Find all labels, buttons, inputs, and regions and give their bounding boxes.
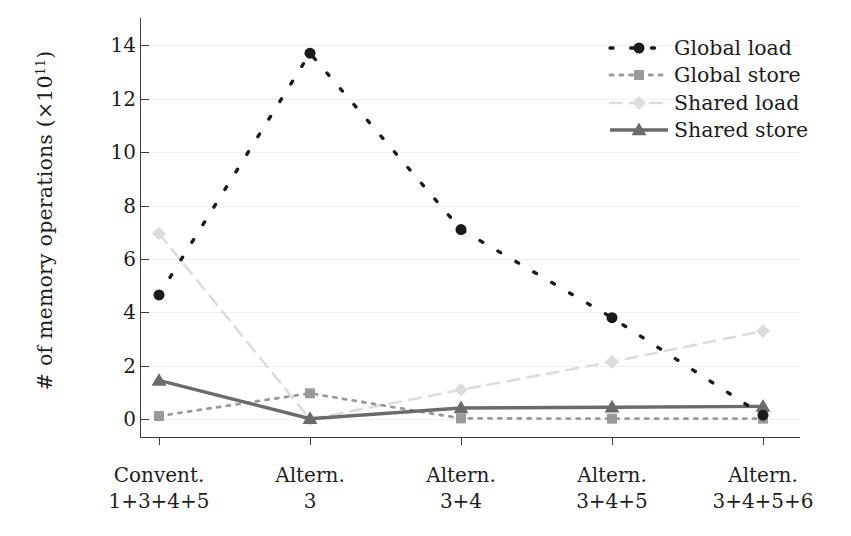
y-tick-label: 10 [76,142,136,162]
x-tick-label: Convent.1+3+4+5 [74,462,244,515]
x-tick-label-line1: Altern. [728,463,798,487]
y-tick-label: 12 [76,89,136,109]
data-point [154,411,164,421]
data-point [456,224,467,235]
x-tick-label-line2: 3+4 [376,488,546,514]
x-tick-label-line1: Altern. [577,463,647,487]
data-point [756,324,770,338]
y-tick-label: 14 [76,35,136,55]
x-tick-label: Altern.3+4+5+6 [678,462,848,515]
data-point [154,289,165,300]
x-tick-mark [310,437,311,445]
data-point [605,355,619,369]
y-axis-label-prefix: # of memory operations (×10 [33,75,57,390]
legend-marker-square-icon [608,64,670,86]
x-tick-mark [159,437,160,445]
data-point [305,48,316,59]
x-tick-mark [612,437,613,445]
x-tick-label-line2: 1+3+4+5 [74,488,244,514]
legend-item[interactable]: Global store [608,62,808,90]
legend-marker-triangle-icon [608,119,670,141]
data-point [456,413,466,423]
legend-marker-circle-icon [608,37,670,59]
data-point [758,410,769,421]
legend-label: Global store [670,63,801,87]
x-tick-label-line2: 3+4+5 [527,488,697,514]
data-point [152,373,167,386]
x-tick-mark [763,437,764,445]
y-axis-label: # of memory operations (×1011) [33,20,58,420]
x-tick-label-line1: Altern. [275,463,345,487]
y-axis-label-exponent: 11 [33,59,48,75]
x-tick-label: Altern.3+4 [376,462,546,515]
y-tick-label: 2 [76,356,136,376]
x-tick-label-line2: 3+4+5+6 [678,488,848,514]
legend-marker-diamond-icon [608,92,670,114]
x-tick-label-line2: 3 [225,488,395,514]
legend-label: Shared load [670,91,799,115]
y-axis-label-suffix: ) [33,51,57,59]
x-tick-label: Altern.3 [225,462,395,515]
data-point [607,414,617,424]
y-tick-label: 8 [76,196,136,216]
legend-item[interactable]: Global load [608,34,808,62]
data-point [454,383,468,397]
y-tick-label: 6 [76,249,136,269]
series-shared-load [152,227,770,426]
memory-operations-chart: # of memory operations (×1011) 024681012… [0,0,851,536]
data-point [607,312,618,323]
chart-legend: Global loadGlobal storeShared loadShared… [608,34,808,144]
data-point [305,388,315,398]
x-tick-mark [461,437,462,445]
x-tick-label: Altern.3+4+5 [527,462,697,515]
legend-item[interactable]: Shared store [608,117,808,145]
legend-item[interactable]: Shared load [608,89,808,117]
legend-label: Global load [670,36,792,60]
legend-label: Shared store [670,118,808,142]
x-tick-label-line1: Altern. [426,463,496,487]
y-tick-label: 0 [76,409,136,429]
x-tick-label-line1: Convent. [114,463,205,487]
y-tick-label: 4 [76,302,136,322]
